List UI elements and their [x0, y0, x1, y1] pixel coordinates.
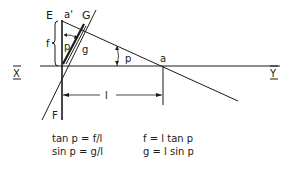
arrowhead — [115, 61, 119, 65]
equation-tan: tan p = f/l — [52, 133, 102, 144]
equation-f: f = l tan p — [143, 133, 193, 144]
fg-inclined-line — [42, 10, 96, 120]
label-p-upper: p — [64, 41, 70, 52]
label-a: a — [160, 53, 166, 64]
equation-g: g = l sin p — [143, 146, 194, 157]
arrowhead — [156, 93, 162, 97]
label-y: Y — [269, 68, 277, 79]
equation-sin: sin p = g/l — [52, 146, 103, 157]
label-g: g — [82, 44, 88, 55]
label-f: f — [46, 38, 50, 49]
sloped-line-a-prime-to-a — [62, 21, 238, 101]
label-l: l — [105, 90, 108, 101]
label-p-angle: p — [125, 53, 131, 64]
label-f-lower: F — [52, 110, 58, 121]
arrowhead — [63, 93, 69, 97]
label-a-prime: a' — [64, 9, 73, 20]
label-x: X — [13, 68, 20, 79]
label-g-upper: G — [82, 9, 91, 22]
arrowhead — [64, 33, 67, 37]
label-e: E — [46, 9, 53, 22]
f-brace — [52, 21, 58, 66]
